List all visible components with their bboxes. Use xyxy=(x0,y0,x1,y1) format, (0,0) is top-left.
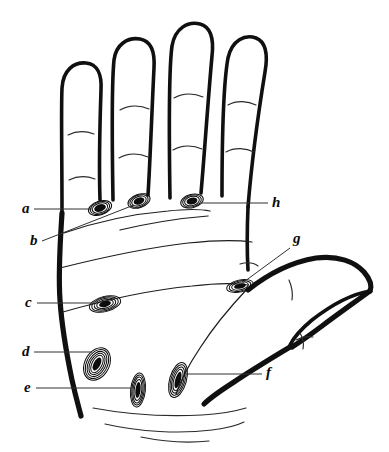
figure-background xyxy=(0,0,389,452)
label-g: g xyxy=(292,230,301,246)
label-b: b xyxy=(30,232,38,248)
label-d: d xyxy=(22,343,30,359)
label-e: e xyxy=(24,379,31,395)
hand-diagram-canvas: a b c d e f g h xyxy=(0,0,389,452)
index-finger-axis-extension xyxy=(247,207,248,270)
label-h: h xyxy=(272,194,280,210)
label-a: a xyxy=(22,200,30,216)
label-c: c xyxy=(25,294,32,310)
hand-callus-figure: a b c d e f g h xyxy=(0,0,389,452)
